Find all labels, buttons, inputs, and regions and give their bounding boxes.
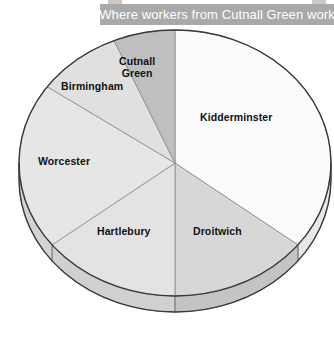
pie-chart-svg — [0, 0, 334, 342]
slice-label-worcester: Worcester — [38, 155, 90, 167]
slice-label-droitwich: Droitwich — [193, 225, 242, 237]
slice-label-hartlebury: Hartlebury — [97, 225, 151, 237]
slice-label-birmingham: Birmingham — [61, 80, 123, 92]
slice-label-cutnall-green-line1: Cutnall — [119, 55, 155, 67]
pie-chart-figure: Where workers from Cutnall Green work Ki… — [0, 0, 334, 342]
slice-label-kidderminster: Kidderminster — [200, 111, 272, 123]
slice-label-cutnall-green: Cutnall Green — [119, 55, 155, 79]
slice-label-cutnall-green-line2: Green — [119, 67, 155, 79]
